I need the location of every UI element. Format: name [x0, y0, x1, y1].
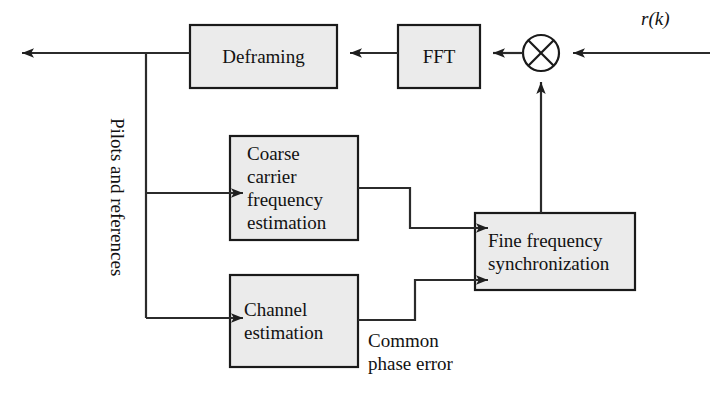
label-common-phase-error: Common phase error — [368, 329, 453, 375]
line-channel-to-fine — [358, 280, 488, 320]
block-label-channel-estimation: Channel estimation — [244, 298, 323, 344]
block-label-coarse-carrier-frequency-estimation: Coarse carrier frequency estimation — [247, 142, 326, 234]
block-label-fft: FFT — [423, 45, 456, 68]
multiplier-symbol[interactable] — [523, 35, 559, 71]
block-diagram-canvas: Deframing FFT Coarse carrier frequency e… — [0, 0, 712, 395]
block-label-wrap-channel-estimation: Channel estimation — [230, 275, 358, 367]
label-pilots-and-references: Pilots and references — [106, 118, 128, 276]
block-label-fine-frequency-synchronization: Fine frequency synchronization — [488, 229, 609, 275]
block-label-deframing: Deframing — [222, 45, 304, 68]
line-coarse-to-fine — [358, 188, 488, 228]
block-label-wrap-deframing: Deframing — [190, 25, 337, 88]
block-label-wrap-fft: FFT — [398, 25, 480, 88]
label-input-signal-rk: r(k) — [641, 8, 669, 30]
block-label-wrap-fine-frequency-synchronization: Fine frequency synchronization — [475, 213, 635, 290]
block-label-wrap-coarse-carrier-frequency-estimation: Coarse carrier frequency estimation — [230, 136, 358, 240]
